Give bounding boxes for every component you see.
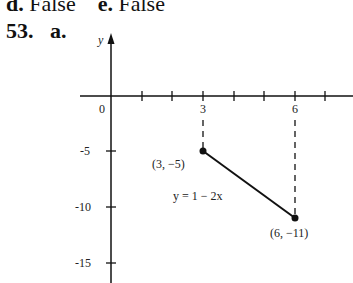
line-segment <box>203 151 295 218</box>
y-axis-arrow-icon <box>108 33 115 44</box>
graph: y 0 3 6 -5 -10 -15 (3, −5) (6, −11) y = … <box>0 0 353 283</box>
y-tick-neg10: -10 <box>75 200 91 214</box>
x-tick-3: 3 <box>200 102 206 116</box>
equation-label: y = 1 − 2x <box>173 189 223 203</box>
point-end-label: (6, −11) <box>270 226 308 240</box>
y-axis-label: y <box>97 33 104 47</box>
y-tick-neg15: -15 <box>75 256 91 270</box>
point-start <box>200 148 207 155</box>
x-tick-0: 0 <box>99 102 105 116</box>
point-start-label: (3, −5) <box>152 157 185 171</box>
point-end <box>292 215 299 222</box>
y-tick-neg5: -5 <box>80 144 90 158</box>
x-tick-6: 6 <box>292 102 298 116</box>
